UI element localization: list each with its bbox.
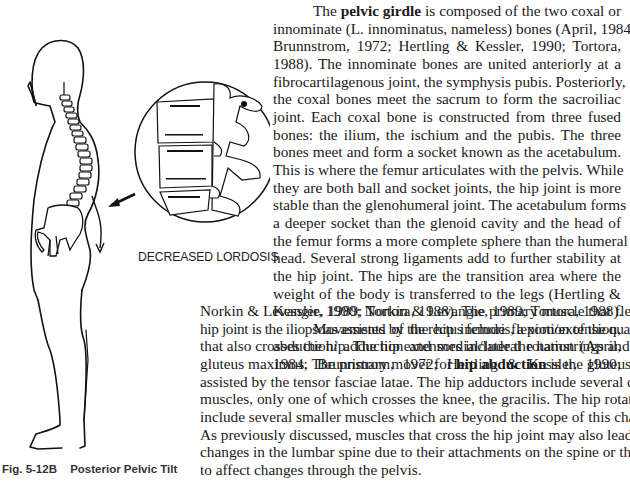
text-line: Norkin & Levangie, 1989; Tortora, 1988).… [200,302,621,320]
text-line: head. Several strong ligaments add to fu… [273,249,621,267]
text-line: the coxal bones meet the sacrum to form … [273,90,621,108]
lumbar-vertebrae-inset-icon [135,82,270,222]
text-line: joint. Each coxal bone is constructed fr… [273,108,621,126]
text-line: bones meet and form a socket known as th… [273,143,621,161]
arrow-pointing-left-down-icon [108,194,135,207]
pelvis-icon [35,205,83,256]
spine-icon [60,82,92,206]
text-line: bones: the ilium, the ischium and the pu… [273,126,621,144]
figure-number: Fig. 5-12B [2,463,57,475]
term-hip-abduction: hip abduction [456,355,547,372]
text-line: innominate (L. innominatus, nameless) bo… [273,20,621,38]
text-line: assisted by the tensor fasciae latae. Th… [200,373,621,391]
paragraph-pelvic-girdle-line: The pelvic girdle is composed of the two… [273,2,621,20]
text-line: hip joint is the iliopsoas assisted by t… [200,320,621,338]
text-line: Brunnstrom, 1972; Hertling & Kessler, 19… [273,37,621,55]
text-line: they are both ball and socket joints, th… [273,179,621,197]
text-line: changes in the lumbar spine due to their… [200,443,621,461]
figure-caption: Fig. 5-12B Posterior Pelvic Tilt [2,463,177,475]
paragraph-hip-abduction-line: gluteus maximus. The primary mover for h… [200,355,621,373]
text-line: As previously discussed, muscles that cr… [200,426,621,444]
text-line: include several smaller muscles which ar… [200,408,621,426]
text-line: 1988). The innominate bones are united a… [273,55,621,73]
text-line: weight of the body is transferred to the… [273,285,621,303]
text-line: muscles, only one of which crosses the k… [200,390,621,408]
figure-title: Posterior Pelvic Tilt [70,463,177,475]
text-line: the femur forms a more complete sphere t… [273,232,621,250]
text-line: that also crosses the hip. The hip exten… [200,337,621,355]
term-pelvic-girdle: pelvic girdle [341,2,421,19]
text-line: a deeper socket than the glenoid cavity … [273,214,621,232]
text-column-bottom: Norkin & Levangie, 1989; Tortora, 1988).… [200,302,621,479]
text-line: stable than the glenohumeral joint. The … [273,196,621,214]
text-line: to affect changes through the pelvis. [200,461,621,479]
text-line: fibrocartilagenous joint, the symphysis … [273,73,621,91]
inset-caption: DECREASED LORDOSIS [138,250,278,264]
text-line: This is where the femur articulates with… [273,161,621,179]
text-line: the hip joint. The hips are the transiti… [273,267,621,285]
